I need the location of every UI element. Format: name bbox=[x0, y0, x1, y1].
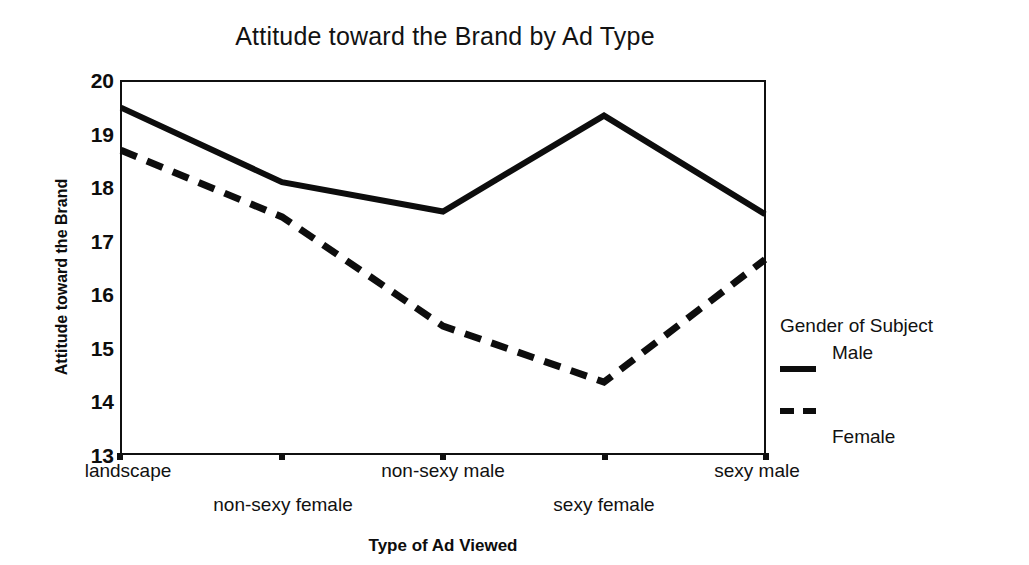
x-tickmark-non-sexy-female bbox=[279, 453, 285, 460]
plot-area bbox=[120, 80, 766, 455]
x-ticklabel-non-sexy-female: non-sexy female bbox=[213, 494, 352, 516]
page-title: Attitude toward the Brand by Ad Type bbox=[120, 22, 770, 51]
legend-entry-male[interactable]: Male bbox=[780, 336, 1015, 380]
x-tickmark-landscape bbox=[117, 453, 123, 460]
legend-title: Gender of Subject bbox=[780, 316, 1015, 336]
y-ticklabel-15: 15 bbox=[91, 337, 114, 358]
x-tickmark-sexy-male bbox=[763, 453, 769, 460]
legend-swatch-solid-line-icon bbox=[780, 366, 816, 372]
y-ticklabel-14: 14 bbox=[91, 391, 114, 412]
legend-label-male: Male bbox=[832, 342, 873, 364]
y-axis-title: Attitude toward the Brand bbox=[53, 152, 71, 402]
x-axis-title: Type of Ad Viewed bbox=[120, 536, 766, 556]
legend-label-female: Female bbox=[832, 426, 895, 448]
legend-swatch-dashed-line-icon bbox=[780, 408, 816, 414]
x-ticklabel-sexy-male: sexy male bbox=[714, 460, 800, 482]
y-ticklabel-17: 17 bbox=[91, 230, 114, 251]
x-ticklabel-sexy-female: sexy female bbox=[553, 494, 654, 516]
x-tickmark-sexy-female bbox=[602, 453, 608, 460]
x-ticklabel-non-sexy-male: non-sexy male bbox=[381, 460, 505, 482]
legend-entry-female[interactable]: Female bbox=[780, 380, 1015, 424]
y-ticklabel-18: 18 bbox=[91, 177, 114, 198]
y-ticklabel-16: 16 bbox=[91, 284, 114, 305]
y-ticklabel-19: 19 bbox=[91, 123, 114, 144]
y-ticklabel-20: 20 bbox=[91, 70, 114, 91]
legend: Gender of Subject Male Female bbox=[780, 316, 1015, 424]
x-ticklabel-landscape: landscape bbox=[85, 460, 172, 482]
y-axis-ticklabels: 20 19 18 17 16 15 14 13 bbox=[78, 80, 114, 455]
chart-figure: Attitude toward the Brand by Ad Type 20 … bbox=[0, 0, 1029, 565]
x-tickmark-non-sexy-male bbox=[440, 453, 446, 460]
